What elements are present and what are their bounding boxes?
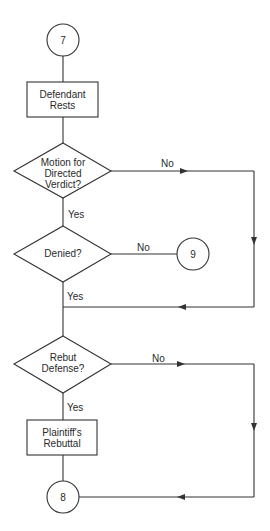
rebut-no-label: No [152, 353, 165, 364]
motion-line1: Motion for [23, 157, 103, 168]
motion-no-label: No [161, 158, 174, 169]
plaintiffs-rebuttal-line1: Plaintiff's [27, 427, 97, 438]
arrow-down-icon [251, 423, 257, 431]
flowchart-graphics [0, 0, 270, 531]
arrowheads [177, 168, 257, 500]
rebut-line2: Defense? [23, 363, 103, 374]
denied-label: Denied? [23, 248, 103, 259]
denied-no-label: No [137, 242, 150, 253]
connector-7-label: 7 [47, 35, 79, 46]
denied-yes-label: Yes [67, 291, 83, 302]
rebut-yes-label: Yes [67, 402, 83, 413]
defendant-rests-line1: Defendant [27, 89, 98, 100]
motion-line3: Verdict? [23, 179, 103, 190]
flowchart: 7 Defendant Rests Motion for Directed Ve… [0, 0, 270, 531]
defendant-rests-line2: Rests [27, 100, 98, 111]
motion-yes-label: Yes [68, 209, 84, 220]
arrow-left-icon [177, 494, 185, 500]
arrow-left-icon [178, 304, 186, 310]
arrow-right-icon [180, 168, 188, 174]
motion-line2: Directed [23, 168, 103, 179]
arrow-right-icon [177, 361, 185, 367]
arrow-down-icon [251, 237, 257, 245]
connector-8-label: 8 [47, 492, 79, 503]
rebut-line1: Rebut [23, 352, 103, 363]
plaintiffs-rebuttal-line2: Rebuttal [27, 438, 97, 449]
connector-9-label: 9 [177, 249, 209, 260]
